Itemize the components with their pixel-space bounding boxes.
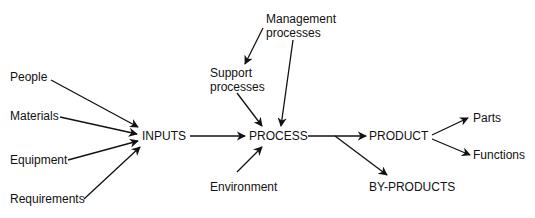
node-parts: Parts — [473, 111, 501, 125]
edge-management-process — [281, 40, 293, 126]
support-line2: processes — [210, 80, 265, 94]
edge-environment-process — [237, 147, 262, 172]
node-equipment: Equipment — [10, 153, 67, 167]
edge-support-process — [237, 93, 262, 126]
edge-management-support — [245, 28, 263, 64]
edge-product-parts — [432, 118, 468, 135]
edge-requirements-inputs — [84, 147, 140, 199]
node-byproducts: BY-PRODUCTS — [369, 180, 455, 194]
node-people: People — [10, 70, 47, 84]
edge-product-functions — [432, 139, 470, 155]
management-line2: processes — [266, 26, 336, 40]
node-materials: Materials — [10, 109, 59, 123]
node-environment: Environment — [210, 180, 277, 194]
node-functions: Functions — [473, 148, 525, 162]
node-inputs: INPUTS — [142, 129, 186, 143]
edge-people-inputs — [51, 80, 138, 127]
node-support-processes: Support processes — [210, 66, 265, 94]
edge-equipment-inputs — [68, 141, 138, 160]
node-process: PROCESS — [249, 129, 308, 143]
node-requirements: Requirements — [10, 192, 85, 206]
support-line1: Support — [210, 66, 265, 80]
node-product: PRODUCT — [369, 129, 428, 143]
node-management-processes: Management processes — [266, 12, 336, 40]
management-line1: Management — [266, 12, 336, 26]
